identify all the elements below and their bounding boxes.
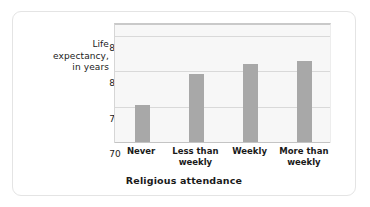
category-label-1: Less thanweekly (164, 146, 226, 167)
category-label-line: Less than (164, 146, 226, 157)
category-label-line: More than (273, 146, 335, 157)
plot-area (114, 23, 331, 143)
x-axis-line (115, 142, 330, 143)
bar-1 (189, 74, 204, 142)
category-label-2: Weekly (219, 146, 281, 157)
category-label-line: Weekly (219, 146, 281, 157)
x-axis-category-labels: NeverLess thanweeklyWeeklyMore thanweekl… (114, 146, 331, 172)
category-label-line: weekly (164, 157, 226, 168)
category-label-0: Never (110, 146, 172, 157)
bar-3 (297, 61, 312, 142)
category-label-3: More thanweekly (273, 146, 335, 167)
x-axis-title: Religious attendance (13, 175, 355, 186)
bar-0 (135, 105, 150, 142)
category-label-line: Never (110, 146, 172, 157)
category-label-line: weekly (273, 157, 335, 168)
figure-card: Life expectancy, in years 70758085 Never… (12, 11, 356, 196)
bar-2 (243, 64, 258, 142)
gridline-85 (115, 36, 330, 37)
